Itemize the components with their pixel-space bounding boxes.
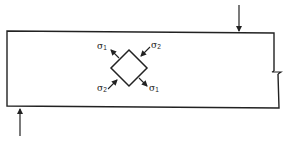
sigma2-arrow-top-right-icon <box>141 47 150 56</box>
label-sigma1-top-left: σ1 <box>97 42 107 52</box>
sigma2-arrow-bottom-left-icon <box>108 80 117 89</box>
label-sigma2-top-right: σ2 <box>151 41 161 51</box>
label-sigma2-bottom-left: σ2 <box>97 84 107 94</box>
beam-outline <box>7 31 279 108</box>
sigma1-arrow-top-left-icon <box>111 50 119 58</box>
beam-diagram <box>0 0 287 143</box>
label-sigma1-bottom-right: σ1 <box>149 84 159 94</box>
break-symbol <box>272 71 281 74</box>
sigma1-arrow-bottom-right-icon <box>139 78 147 86</box>
